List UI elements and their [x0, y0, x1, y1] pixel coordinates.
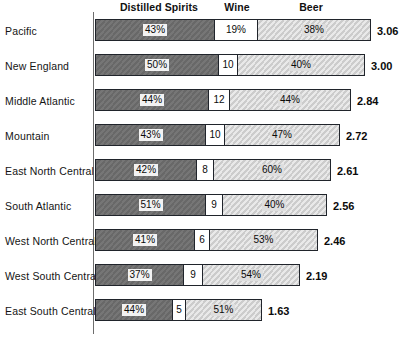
row-label-new-england: New England: [5, 60, 69, 72]
bar-segment-value: 54%: [239, 269, 263, 281]
bar-segment-spirits: 37%: [96, 265, 183, 285]
chart-row: Pacific43%19%38%3.06: [0, 19, 399, 43]
bar-segment-value: 5: [176, 305, 182, 315]
chart-row: Middle Atlantic44%1244%2.84: [0, 89, 399, 113]
bar-segment-beer: 54%: [203, 265, 299, 285]
bar-segment-beer: 38%: [258, 20, 370, 40]
bar-segment-wine: 10: [205, 125, 225, 145]
bar-segment-beer: 53%: [210, 230, 317, 250]
bar-segment-spirits: 43%: [96, 125, 205, 145]
bar-segment-wine: 19%: [214, 20, 258, 40]
bar-segment-spirits: 50%: [96, 55, 218, 75]
row-label-pacific: Pacific: [5, 25, 37, 37]
stacked-bar: 51%940%: [95, 194, 327, 216]
bar-segment-spirits: 44%: [96, 90, 208, 110]
bar-segment-spirits: 51%: [96, 195, 205, 215]
row-label-west-south-central: West South Central: [5, 270, 99, 282]
bar-segment-value: 12: [213, 95, 224, 105]
bar-segment-value: 42%: [134, 164, 158, 176]
bar-segment-wine: 9: [183, 265, 203, 285]
bar-segment-value: 44%: [278, 94, 302, 106]
bar-segment-spirits: 44%: [96, 300, 172, 320]
bar-segment-value: 37%: [128, 269, 152, 281]
bar-segment-value: 43%: [139, 129, 163, 141]
bar-segment-value: 9: [190, 270, 196, 280]
stacked-bar: 43%1047%: [95, 124, 340, 146]
row-total-value: 2.56: [333, 200, 354, 212]
bar-segment-value: 10: [209, 130, 220, 140]
bar-segment-wine: 5: [172, 300, 186, 320]
bar-segment-beer: 40%: [223, 195, 326, 215]
row-total-value: 2.72: [346, 130, 367, 142]
chart-row: East North Central42%860%2.61: [0, 159, 399, 183]
bar-segment-value: 19%: [226, 25, 246, 35]
chart-row: West North Central41%653%2.46: [0, 229, 399, 253]
bar-segment-wine: 9: [205, 195, 223, 215]
row-label-west-north-central: West North Central: [5, 235, 97, 247]
bar-segment-value: 44%: [140, 94, 164, 106]
bar-segment-value: 10: [222, 60, 233, 70]
chart-row: Mountain43%1047%2.72: [0, 124, 399, 148]
bar-segment-spirits: 43%: [96, 20, 214, 40]
bar-segment-value: 8: [202, 165, 208, 175]
bar-segment-value: 41%: [133, 234, 157, 246]
stacked-bar: 42%860%: [95, 159, 331, 181]
stacked-bar: 44%1244%: [95, 89, 351, 111]
bar-segment-value: 60%: [260, 164, 284, 176]
row-total-value: 3.06: [377, 25, 398, 37]
chart-row: East South Central44%551%1.63: [0, 299, 399, 323]
bar-segment-value: 38%: [302, 24, 326, 36]
bar-segment-beer: 40%: [238, 55, 364, 75]
bar-segment-beer: 51%: [186, 300, 261, 320]
bar-segment-value: 40%: [289, 59, 313, 71]
row-total-value: 2.61: [337, 165, 358, 177]
row-total-value: 2.46: [324, 235, 345, 247]
row-label-south-atlantic: South Atlantic: [5, 200, 71, 212]
chart-row: West South Central37%954%2.19: [0, 264, 399, 288]
bar-segment-value: 53%: [251, 234, 275, 246]
stacked-bar-chart: Distilled Spirits Wine Beer Pacific43%19…: [0, 0, 399, 340]
row-total-value: 2.19: [306, 270, 327, 282]
bar-segment-value: 51%: [139, 199, 163, 211]
bar-segment-beer: 60%: [214, 160, 330, 180]
bar-segment-value: 50%: [145, 59, 169, 71]
stacked-bar: 37%954%: [95, 264, 300, 286]
bar-segment-value: 44%: [122, 304, 146, 316]
bar-segment-value: 9: [211, 200, 217, 210]
stacked-bar: 43%19%38%: [95, 19, 371, 41]
bar-segment-wine: 12: [208, 90, 230, 110]
row-total-value: 3.00: [371, 60, 392, 72]
stacked-bar: 41%653%: [95, 229, 318, 251]
bar-segment-value: 51%: [211, 304, 235, 316]
chart-row: South Atlantic51%940%2.56: [0, 194, 399, 218]
row-label-mountain: Mountain: [5, 130, 49, 142]
row-label-middle-atlantic: Middle Atlantic: [5, 95, 75, 107]
chart-row: New England50%1040%3.00: [0, 54, 399, 78]
row-total-value: 2.84: [357, 95, 378, 107]
bar-segment-spirits: 41%: [96, 230, 194, 250]
bar-segment-value: 47%: [270, 129, 294, 141]
bar-segment-value: 40%: [262, 199, 286, 211]
bar-segment-wine: 8: [196, 160, 214, 180]
row-label-east-south-central: East South Central: [5, 305, 96, 317]
bar-segment-beer: 44%: [230, 90, 350, 110]
bar-segment-beer: 47%: [225, 125, 339, 145]
bar-segment-value: 43%: [143, 24, 167, 36]
bar-segment-spirits: 42%: [96, 160, 196, 180]
bar-segment-value: 6: [199, 235, 205, 245]
stacked-bar: 44%551%: [95, 299, 262, 321]
stacked-bar: 50%1040%: [95, 54, 365, 76]
bar-segment-wine: 10: [218, 55, 238, 75]
row-total-value: 1.63: [268, 305, 289, 317]
column-header-wine: Wine: [206, 1, 268, 13]
column-header-beer: Beer: [272, 1, 350, 13]
row-label-east-north-central: East North Central: [5, 165, 94, 177]
column-header-distilled-spirits: Distilled Spirits: [107, 1, 211, 13]
bar-segment-wine: 6: [194, 230, 210, 250]
